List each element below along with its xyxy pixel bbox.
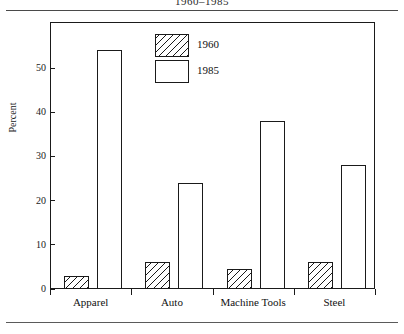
legend-swatch-1960 <box>155 34 189 57</box>
x-tick-mark <box>213 289 214 295</box>
bar-apparel-1985 <box>97 50 122 289</box>
bar-steel-1985 <box>341 165 366 289</box>
x-axis-label-machine-tools: Machine Tools <box>213 296 294 308</box>
y-tick-label: 0 <box>22 282 46 295</box>
bar-auto-1985 <box>178 183 203 289</box>
y-tick-mark <box>50 68 55 69</box>
x-axis-label-apparel: Apparel <box>50 296 131 308</box>
bar-machine-tools-1985 <box>260 121 285 289</box>
y-tick-label: 10 <box>22 238 46 251</box>
y-tick-label: 20 <box>22 194 46 207</box>
y-tick-label: 30 <box>22 149 46 162</box>
x-tick-mark <box>131 289 132 295</box>
bar-steel-1960 <box>308 262 333 289</box>
y-axis-title: Percent <box>7 78 18 158</box>
x-axis-label-auto: Auto <box>131 296 212 308</box>
legend-label-1985: 1985 <box>197 64 219 76</box>
y-tick-mark <box>50 200 55 201</box>
bar-apparel-1960 <box>64 276 89 289</box>
bar-auto-1960 <box>145 262 170 289</box>
x-tick-mark <box>375 289 376 295</box>
legend-swatch-1985 <box>155 60 189 83</box>
x-tick-mark <box>294 289 295 295</box>
bar-machine-tools-1960 <box>227 269 252 289</box>
y-tick-mark <box>50 156 55 157</box>
bottom-horizontal-rule <box>6 322 398 323</box>
y-tick-label: 40 <box>22 105 46 118</box>
chart-page: 1960–1985 Percent 01020304050 ApparelAut… <box>0 0 404 334</box>
y-tick-mark <box>50 112 55 113</box>
running-title: 1960–1985 <box>0 0 404 6</box>
y-tick-label: 50 <box>22 61 46 74</box>
y-tick-mark <box>50 244 55 245</box>
legend-label-1960: 1960 <box>197 38 219 50</box>
x-axis-label-steel: Steel <box>294 296 375 308</box>
x-tick-mark <box>50 289 51 295</box>
top-horizontal-rule <box>6 10 398 11</box>
